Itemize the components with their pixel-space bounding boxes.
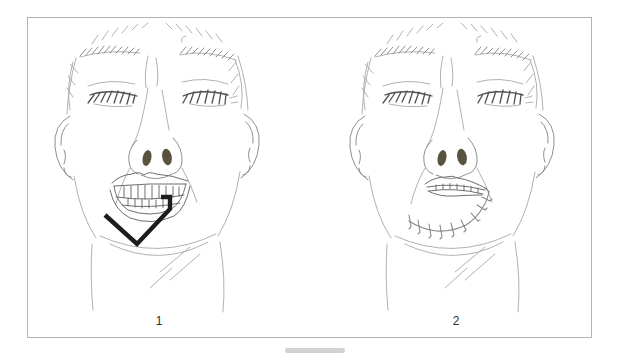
- figure-2-label: 2: [446, 314, 466, 328]
- suture-line: [409, 191, 492, 239]
- suture-path: [409, 191, 489, 231]
- suture-stitches: [409, 197, 492, 239]
- figure-2-illustration: [335, 18, 570, 318]
- closed-mouth: [425, 176, 489, 196]
- face-illustration: [350, 23, 554, 312]
- upper-teeth: [116, 186, 184, 200]
- open-mouth: [110, 173, 190, 222]
- figure-1-label: 1: [149, 314, 169, 328]
- teeth-strip: [427, 184, 485, 195]
- lower-lip: [110, 184, 190, 222]
- horizontal-scrollbar-thumb[interactable]: [285, 348, 345, 353]
- face-illustration: [55, 23, 259, 312]
- figure-1-illustration: [40, 18, 275, 318]
- illustration-panel: 1 2: [27, 17, 592, 338]
- upper-lip: [112, 173, 188, 186]
